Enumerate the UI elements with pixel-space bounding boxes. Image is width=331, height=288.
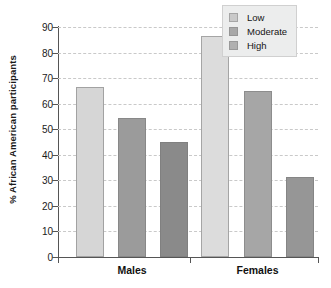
y-axis-tick-label: 20 (27, 200, 53, 211)
bar-males-low (76, 87, 104, 257)
bar-females-low (201, 36, 229, 257)
legend-item: Low (229, 10, 287, 24)
bar-chart: % African American participants 01020304… (0, 0, 331, 288)
gridline (58, 78, 318, 79)
y-axis-tick-label: 70 (27, 73, 53, 84)
legend-item-label: Moderate (247, 26, 287, 37)
bar-males-high (160, 142, 188, 257)
y-axis-tick-label: 80 (27, 47, 53, 58)
legend: LowModerateHigh (222, 5, 297, 57)
x-axis-group-label: Males (87, 264, 177, 276)
y-axis-tick-label: 50 (27, 124, 53, 135)
bar-females-high (286, 177, 314, 258)
y-axis-tick-label: 40 (27, 149, 53, 160)
legend-item: High (229, 38, 287, 52)
y-axis-title-text: % African American participants (7, 55, 18, 204)
y-axis-tick-label: 30 (27, 175, 53, 186)
legend-swatch-icon (229, 13, 238, 22)
bar-males-moderate (118, 118, 146, 257)
x-axis-group-separator-tick (190, 257, 191, 263)
x-axis-end-tick (58, 257, 59, 263)
x-axis-group-label: Females (213, 264, 303, 276)
legend-item-label: Low (247, 12, 264, 23)
y-axis-title: % African American participants (2, 0, 22, 258)
x-axis-end-tick (318, 257, 319, 263)
legend-item-label: High (247, 40, 267, 51)
y-axis-tick-label: 90 (27, 22, 53, 33)
y-axis-tick-label: 10 (27, 226, 53, 237)
x-axis-line (58, 257, 319, 258)
y-axis-tick-label: 60 (27, 98, 53, 109)
legend-swatch-icon (229, 27, 238, 36)
y-axis-tick-label: 0 (27, 252, 53, 263)
legend-item: Moderate (229, 24, 287, 38)
bar-females-moderate (244, 91, 272, 257)
plot-area (58, 27, 318, 257)
legend-swatch-icon (229, 41, 238, 50)
